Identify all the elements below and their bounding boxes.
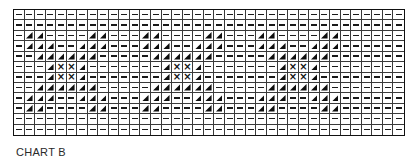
cross-icon: × [183, 73, 193, 82]
dash-icon [195, 107, 201, 109]
chart-cell [56, 104, 67, 114]
chart-cell [25, 83, 36, 93]
dash-icon [132, 97, 138, 99]
dash-icon [121, 129, 127, 131]
chart-cell [56, 31, 67, 41]
dash-icon [16, 55, 22, 57]
chart-cell: × [172, 62, 183, 72]
chart-cell [35, 10, 46, 20]
dash-icon [290, 118, 296, 120]
dash-icon [16, 14, 22, 16]
filled-triangle-icon [100, 105, 107, 111]
chart-cell [14, 20, 25, 30]
dash-icon [142, 87, 148, 89]
dash-icon [184, 24, 190, 26]
cross-icon: × [172, 62, 182, 71]
chart-cell [130, 83, 141, 93]
dash-icon [142, 129, 148, 131]
dash-icon [174, 129, 180, 131]
dash-icon [343, 129, 349, 131]
dash-icon [364, 87, 370, 89]
dash-icon [111, 14, 117, 16]
chart-cell [25, 41, 36, 51]
chart-cell [341, 10, 352, 20]
chart-cell [351, 41, 362, 51]
dash-icon [364, 107, 370, 109]
chart-cell [362, 104, 373, 114]
filled-triangle-icon [89, 53, 96, 59]
dash-icon [279, 107, 285, 109]
dash-icon [343, 87, 349, 89]
dash-icon [279, 35, 285, 37]
filled-triangle-icon [279, 84, 286, 90]
filled-triangle-icon [268, 105, 275, 111]
chart-cell [278, 41, 289, 51]
chart-cell [14, 104, 25, 114]
filled-triangle-icon [100, 95, 107, 101]
chart-cell [151, 62, 162, 72]
chart-cell [109, 41, 120, 51]
dash-icon [300, 24, 306, 26]
dash-icon [111, 87, 117, 89]
dash-icon [332, 66, 338, 68]
dash-icon [237, 87, 243, 89]
chart-cell [140, 31, 151, 41]
chart-cell [372, 41, 383, 51]
dash-icon [227, 35, 233, 37]
chart-cell [204, 104, 215, 114]
chart-cell [225, 62, 236, 72]
dash-icon [195, 14, 201, 16]
filled-triangle-icon [195, 53, 202, 59]
chart-cell [88, 114, 99, 124]
chart-cell [88, 10, 99, 20]
chart-cell [214, 83, 225, 93]
chart-cell [172, 125, 183, 135]
filled-triangle-icon [258, 95, 265, 101]
chart-cell [162, 10, 173, 20]
dash-icon [374, 45, 380, 47]
chart-cell [278, 52, 289, 62]
dash-icon [353, 35, 359, 37]
filled-triangle-icon [205, 105, 212, 111]
chart-cell [278, 125, 289, 135]
dash-icon [16, 24, 22, 26]
dash-icon [258, 129, 264, 131]
dash-icon [153, 14, 159, 16]
filled-triangle-icon [89, 105, 96, 111]
dash-icon [163, 24, 169, 26]
chart-cell [288, 104, 299, 114]
dash-icon [385, 24, 391, 26]
chart-cell [330, 62, 341, 72]
chart-cell [341, 52, 352, 62]
chart-cell [162, 93, 173, 103]
chart-cell [46, 125, 57, 135]
chart-cell [278, 83, 289, 93]
chart-cell [130, 62, 141, 72]
dash-icon [58, 45, 64, 47]
chart-cell: × [67, 73, 78, 83]
knitting-chart-grid: ×××××××××××× [13, 9, 405, 136]
dash-icon [79, 35, 85, 37]
chart-cell [204, 114, 215, 124]
dash-icon [205, 129, 211, 131]
chart-cell [214, 73, 225, 83]
filled-triangle-icon [37, 95, 44, 101]
chart-cell [193, 114, 204, 124]
filled-triangle-icon [47, 95, 54, 101]
dash-icon [364, 55, 370, 57]
chart-cell [204, 62, 215, 72]
chart-cell [98, 41, 109, 51]
chart-cell [320, 114, 331, 124]
dash-icon [100, 24, 106, 26]
dash-icon [184, 97, 190, 99]
chart-cell [330, 104, 341, 114]
filled-triangle-icon [311, 43, 318, 49]
filled-triangle-icon [58, 84, 65, 90]
chart-cell [98, 93, 109, 103]
chart-cell [383, 114, 394, 124]
dash-icon [374, 76, 380, 78]
chart-cell [383, 73, 394, 83]
chart-cell [46, 41, 57, 51]
cross-icon: × [56, 62, 66, 71]
chart-cell [88, 41, 99, 51]
